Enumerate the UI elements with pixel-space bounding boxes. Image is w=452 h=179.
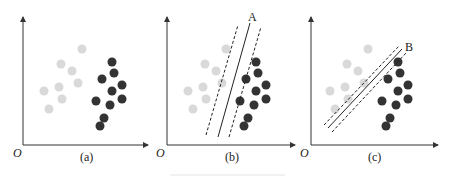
dark-point [404,95,413,104]
light-point [201,60,210,69]
dark-points [92,58,127,131]
dark-point [378,97,387,106]
panel-label: (b) [225,150,239,164]
dark-point [244,114,253,123]
panel-a: O (a) [13,17,148,164]
light-point [189,105,198,114]
light-point [74,79,83,88]
light-point [354,67,363,76]
dark-point [92,97,101,106]
faint-caption [170,174,285,176]
dark-point [118,81,127,90]
dark-points [236,58,271,131]
dark-point [394,87,403,96]
dark-point [118,95,127,104]
margin-line-left [206,25,238,135]
light-point [199,83,208,92]
panel-c: B O (c) [300,17,438,164]
svm-hyperplane-figure: O (a) A O (b) B O (c) [0,0,452,179]
dark-point [108,87,117,96]
dark-point [98,75,107,84]
dark-point [392,101,401,110]
dark-point [96,122,105,131]
dark-point [110,69,119,78]
dark-point [252,87,261,96]
light-point [202,95,211,104]
dark-point [106,101,115,110]
light-point [326,87,335,96]
light-point [184,87,193,96]
dark-point [262,95,271,104]
dark-points [378,58,413,131]
dark-point [252,58,261,67]
light-point [57,60,66,69]
dark-point [240,122,249,131]
light-point [58,95,67,104]
dark-point [262,81,271,90]
light-point [331,105,340,114]
light-point [341,83,350,92]
dark-point [100,114,109,123]
light-point [212,67,221,76]
light-point [45,105,54,114]
dark-point [382,122,391,131]
light-point [364,45,373,54]
light-point [55,83,64,92]
light-points [40,45,87,114]
hyperplane-label-a: A [248,10,257,24]
origin-label: O [300,146,309,160]
hyperplane-label-b: B [405,40,413,54]
dark-point [404,81,413,90]
light-point [343,60,352,69]
light-points [326,45,373,114]
light-point [78,45,87,54]
light-point [222,45,231,54]
panel-label: (c) [368,150,381,164]
panel-b: A O (b) [156,10,295,164]
light-points [184,45,231,114]
dark-point [396,69,405,78]
dark-point [250,101,259,110]
dark-point [108,58,117,67]
light-point [40,87,49,96]
origin-label: O [13,146,22,160]
light-point [68,67,77,76]
origin-label: O [156,146,165,160]
dark-point [386,114,395,123]
dark-point [254,69,263,78]
panel-label: (a) [80,150,93,164]
